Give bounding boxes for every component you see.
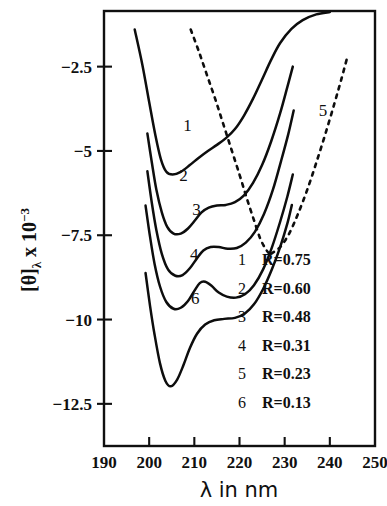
legend-index-3: 3 xyxy=(238,308,246,325)
x-tick-label: 250 xyxy=(362,453,387,472)
y-tick-label: −7.5 xyxy=(61,226,92,245)
curve-label-6: 6 xyxy=(191,289,200,308)
svg-text:[θ]λ x 10−3: [θ]λ x 10−3 xyxy=(17,207,44,292)
curve-label-1: 1 xyxy=(183,116,192,135)
y-axis-title-superscript: −3 xyxy=(17,207,32,221)
y-axis-title: [θ]λ x 10−3 xyxy=(17,207,44,292)
x-tick-label: 210 xyxy=(182,453,208,472)
legend-value-4: R=0.31 xyxy=(262,337,311,354)
y-tick-label: −10 xyxy=(65,311,92,330)
y-tick-label: −12.5 xyxy=(53,395,92,414)
x-tick-label: 220 xyxy=(227,453,253,472)
legend-value-2: R=0.60 xyxy=(262,280,311,297)
legend-value-5: R=0.23 xyxy=(262,365,311,382)
legend-index-6: 6 xyxy=(238,394,246,411)
legend-index-4: 4 xyxy=(238,337,246,354)
chart-canvas: 190200210220230240250 −2.5−5−7.5−10−12.5… xyxy=(0,0,387,506)
x-tick-label: 240 xyxy=(317,453,343,472)
y-axis-title-base: [θ] xyxy=(18,268,40,292)
legend-index-5: 5 xyxy=(238,365,246,382)
curve-label-3: 3 xyxy=(192,200,201,219)
x-tick-label: 230 xyxy=(272,453,298,472)
y-axis-tick-labels: −2.5−5−7.5−10−12.5 xyxy=(53,58,92,414)
x-tick-label: 200 xyxy=(136,453,162,472)
data-curves xyxy=(135,12,347,386)
x-axis-tick-labels: 190200210220230240250 xyxy=(91,453,387,472)
legend-value-6: R=0.13 xyxy=(262,394,311,411)
y-axis-title-mid: x 10 xyxy=(18,222,40,262)
legend-index-2: 2 xyxy=(238,280,246,297)
curve-number-annotations: 123465 xyxy=(179,101,327,309)
x-tick-label: 190 xyxy=(91,453,117,472)
curve-label-2: 2 xyxy=(179,166,188,185)
legend: 1R=0.752R=0.603R=0.484R=0.315R=0.236R=0.… xyxy=(238,251,311,411)
legend-value-3: R=0.48 xyxy=(262,308,311,325)
curve-2 xyxy=(147,67,292,235)
legend-index-1: 1 xyxy=(238,251,246,268)
cd-spectrum-figure: 190200210220230240250 −2.5−5−7.5−10−12.5… xyxy=(0,0,387,506)
y-tick-label: −5 xyxy=(74,142,92,161)
curve-label-4: 4 xyxy=(190,245,199,264)
curve-label-5: 5 xyxy=(319,101,328,120)
legend-value-1: R=0.75 xyxy=(262,251,311,268)
y-tick-label: −2.5 xyxy=(61,58,92,77)
x-axis-title: λ in nm xyxy=(200,478,279,502)
x-axis-ticks xyxy=(149,437,330,446)
